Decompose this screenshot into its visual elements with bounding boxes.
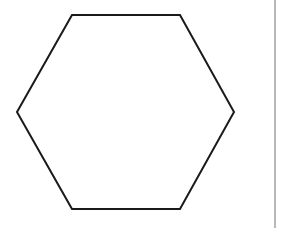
diagram-canvas xyxy=(0,0,283,228)
hexagon-shape xyxy=(17,15,234,209)
right-divider-line xyxy=(274,0,276,228)
